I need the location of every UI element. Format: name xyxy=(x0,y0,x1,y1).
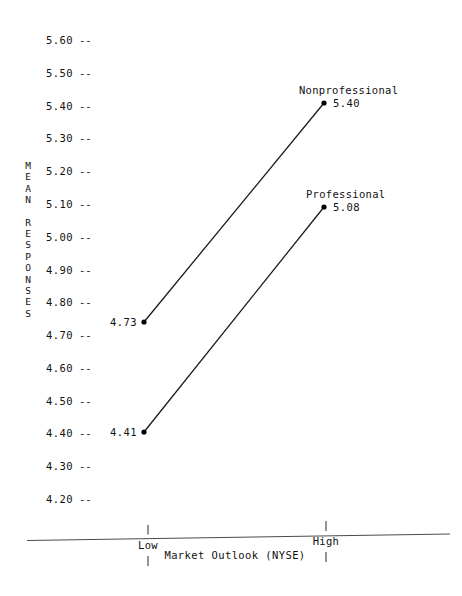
data-point-professional-high xyxy=(321,204,326,209)
data-point-nonprofessional-low xyxy=(141,319,146,324)
x-axis-title: Market Outlook (NYSE) xyxy=(0,549,462,561)
x-axis-title-text: Market Outlook (NYSE) xyxy=(164,549,305,561)
point-label-professional-high: 5.08 xyxy=(333,201,360,213)
line-chart: 5.60--5.50--5.40--5.30--5.20--5.10--5.00… xyxy=(0,0,462,596)
x-axis-line xyxy=(27,534,450,541)
x-axis-tick-label-high: High xyxy=(306,535,346,547)
series-label-professional: Professional xyxy=(306,188,385,200)
series-line-nonprofessional xyxy=(144,103,324,322)
point-label-nonprofessional-high: 5.40 xyxy=(333,97,360,109)
data-point-professional-low xyxy=(141,429,146,434)
series-line-professional xyxy=(144,207,324,432)
point-label-nonprofessional-low: 4.73 xyxy=(110,316,137,328)
point-label-professional-low: 4.41 xyxy=(110,426,137,438)
series-label-nonprofessional: Nonprofessional xyxy=(299,84,398,96)
data-point-nonprofessional-high xyxy=(321,100,326,105)
